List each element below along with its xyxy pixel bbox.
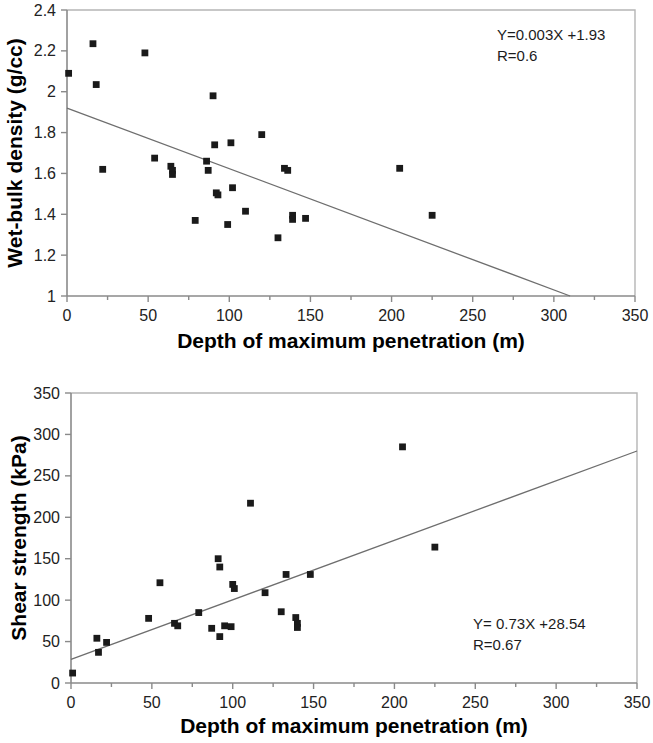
y-axis-tick-label: 0 bbox=[51, 675, 60, 692]
y-axis-title: Shear strength (kPa) bbox=[7, 435, 30, 640]
correlation-annotation: R=0.6 bbox=[497, 47, 537, 64]
y-axis-tick-label: 2 bbox=[47, 83, 56, 100]
y-axis-tick-label: 350 bbox=[33, 385, 60, 402]
data-point bbox=[431, 544, 438, 551]
x-axis-tick-label: 200 bbox=[378, 307, 405, 324]
data-point bbox=[292, 614, 299, 621]
data-point bbox=[145, 615, 152, 622]
data-point bbox=[157, 579, 164, 586]
y-axis-tick-label: 1.4 bbox=[34, 206, 56, 223]
data-point bbox=[103, 639, 110, 646]
data-point bbox=[215, 555, 222, 562]
equation-annotation: Y= 0.73X +28.54 bbox=[473, 615, 586, 632]
x-axis-tick-label: 50 bbox=[139, 307, 157, 324]
x-axis-tick-label: 350 bbox=[622, 307, 649, 324]
data-point bbox=[247, 500, 254, 507]
data-point bbox=[262, 589, 269, 596]
shear-strength-plot: 0501001502002503003500501001502002503003… bbox=[0, 371, 653, 743]
data-point bbox=[169, 171, 176, 178]
data-point bbox=[216, 633, 223, 640]
data-point bbox=[284, 167, 291, 174]
y-axis-tick-label: 1.8 bbox=[34, 124, 56, 141]
plot-frame bbox=[71, 393, 637, 683]
data-point bbox=[174, 622, 181, 629]
y-axis-tick-label: 1.6 bbox=[34, 165, 56, 182]
data-point bbox=[205, 167, 212, 174]
x-axis-title: Depth of maximum penetration (m) bbox=[180, 714, 528, 737]
y-axis-tick-label: 200 bbox=[33, 509, 60, 526]
equation-annotation: Y=0.003X +1.93 bbox=[497, 26, 605, 43]
data-point bbox=[203, 158, 210, 165]
data-point bbox=[275, 234, 282, 241]
data-point bbox=[65, 70, 72, 77]
data-point bbox=[142, 50, 149, 57]
data-point bbox=[208, 625, 215, 632]
x-axis-tick-label: 150 bbox=[297, 307, 324, 324]
x-axis-tick-label: 250 bbox=[459, 307, 486, 324]
x-axis-title: Depth of maximum penetration (m) bbox=[177, 329, 525, 352]
x-axis-tick-label: 300 bbox=[543, 694, 570, 711]
y-axis-tick-label: 2.2 bbox=[34, 42, 56, 59]
data-point bbox=[93, 635, 100, 642]
y-axis-tick-label: 50 bbox=[42, 633, 60, 650]
data-point bbox=[242, 208, 249, 215]
data-point bbox=[258, 131, 265, 138]
data-point bbox=[215, 191, 222, 198]
trend-line bbox=[67, 108, 570, 296]
x-axis-tick-label: 100 bbox=[219, 694, 246, 711]
wet-bulk-density-plot: 11.21.41.61.822.22.405010015020025030035… bbox=[0, 0, 653, 371]
y-axis-tick-label: 2.4 bbox=[34, 2, 56, 19]
data-point bbox=[228, 139, 235, 146]
data-point bbox=[211, 141, 218, 148]
x-axis-tick-label: 350 bbox=[624, 694, 651, 711]
x-axis-tick-label: 0 bbox=[67, 694, 76, 711]
data-point bbox=[229, 184, 236, 191]
data-point bbox=[294, 624, 301, 631]
data-series bbox=[65, 40, 435, 241]
x-axis-tick-label: 100 bbox=[216, 307, 243, 324]
y-axis-tick-label: 1 bbox=[47, 288, 56, 305]
data-point bbox=[283, 571, 290, 578]
data-point bbox=[289, 216, 296, 223]
data-point bbox=[99, 166, 106, 173]
y-axis-tick-label: 300 bbox=[33, 426, 60, 443]
x-axis-tick-label: 200 bbox=[381, 694, 408, 711]
data-point bbox=[90, 40, 97, 47]
data-point bbox=[307, 571, 314, 578]
data-point bbox=[69, 670, 76, 677]
y-axis-tick-label: 100 bbox=[33, 592, 60, 609]
data-point bbox=[228, 623, 235, 630]
data-point bbox=[210, 92, 217, 99]
data-point bbox=[93, 81, 100, 88]
x-axis-tick-label: 50 bbox=[143, 694, 161, 711]
y-axis-title: Wet-bulk density (g/cc) bbox=[3, 38, 26, 267]
data-point bbox=[429, 212, 436, 219]
data-point bbox=[278, 608, 285, 615]
data-series bbox=[69, 443, 438, 676]
data-point bbox=[396, 165, 403, 172]
data-point bbox=[224, 221, 231, 228]
data-point bbox=[231, 585, 238, 592]
y-axis-tick-label: 1.2 bbox=[34, 247, 56, 264]
data-point bbox=[192, 217, 199, 224]
x-axis-tick-label: 0 bbox=[63, 307, 72, 324]
data-point bbox=[221, 622, 228, 629]
correlation-annotation: R=0.67 bbox=[473, 636, 522, 653]
x-axis-tick-label: 250 bbox=[462, 694, 489, 711]
data-point bbox=[95, 649, 102, 656]
wet-bulk-density-chart: 11.21.41.61.822.22.405010015020025030035… bbox=[0, 0, 653, 371]
shear-strength-chart: 0501001502002503003500501001502002503003… bbox=[0, 371, 653, 743]
plot-frame bbox=[67, 10, 635, 296]
x-axis-tick-label: 150 bbox=[300, 694, 327, 711]
y-axis-tick-label: 150 bbox=[33, 550, 60, 567]
x-axis-tick-label: 300 bbox=[541, 307, 568, 324]
data-point bbox=[399, 443, 406, 450]
data-point bbox=[151, 155, 158, 162]
data-point bbox=[195, 609, 202, 616]
data-point bbox=[216, 564, 223, 571]
data-point bbox=[302, 215, 309, 222]
y-axis-tick-label: 250 bbox=[33, 467, 60, 484]
